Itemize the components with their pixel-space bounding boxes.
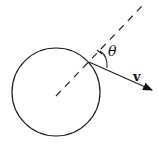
angle-label-theta: θ <box>108 43 116 59</box>
diagram-canvas: θ v <box>0 0 159 149</box>
velocity-vector-arrow <box>89 62 152 90</box>
circle <box>12 48 100 136</box>
vector-label-v: v <box>133 69 141 84</box>
